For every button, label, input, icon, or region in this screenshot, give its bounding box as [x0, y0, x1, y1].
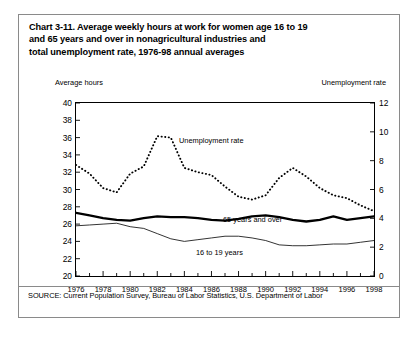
y-tick-left: 24	[63, 237, 72, 245]
y-tick-left: 32	[63, 168, 72, 176]
source-note: SOURCE: Current Population Survey, Burea…	[28, 291, 323, 300]
annotation-16-to-19-years: 16 to 19 years	[196, 249, 243, 256]
y-tick-right: 2	[379, 243, 384, 251]
plot-area: 2022242628303234363840 024681012 1976197…	[75, 102, 375, 277]
annotation-65-years-and-over: 65 years and over	[223, 216, 282, 223]
y-tick-left: 26	[63, 220, 72, 228]
y-tick-left: 38	[63, 116, 72, 124]
chart-frame: Chart 3-11. Average weekly hours at work…	[18, 14, 400, 318]
y-tick-right: 8	[379, 156, 384, 164]
right-axis-caption: Unemployment rate	[322, 78, 387, 87]
source-divider	[19, 286, 399, 287]
chart-title-line-1: Chart 3-11. Average weekly hours at work…	[29, 21, 391, 33]
y-tick-right: 6	[379, 185, 384, 193]
x-tick-label: 1996	[338, 286, 355, 294]
y-tick-right: 10	[379, 128, 388, 136]
y-tick-right: 0	[379, 272, 384, 280]
left-axis-caption: Average hours	[55, 78, 103, 87]
chart-title-line-2: and 65 years and over in nonagricultural…	[29, 33, 391, 45]
y-tick-right: 12	[379, 99, 388, 107]
y-tick-left: 40	[63, 99, 72, 107]
y-tick-left: 34	[63, 151, 72, 159]
y-tick-left: 22	[63, 254, 72, 262]
chart-title-line-3: total unemployment rate, 1976-98 annual …	[29, 46, 391, 58]
y-tick-left: 30	[63, 185, 72, 193]
y-tick-right: 4	[379, 214, 384, 222]
x-tick-label: 1998	[366, 286, 383, 294]
y-tick-left: 28	[63, 203, 72, 211]
y-tick-left: 36	[63, 133, 72, 141]
x-axis-ticks: 1976197819801982198419861988199019921994…	[76, 276, 374, 292]
series-line-16-to-19-years	[76, 223, 374, 245]
chart-title: Chart 3-11. Average weekly hours at work…	[29, 21, 391, 58]
annotation-unemployment-rate: Unemployment rate	[179, 137, 244, 144]
series-line-unemployment-rate	[76, 136, 374, 211]
y-tick-left: 20	[63, 272, 72, 280]
